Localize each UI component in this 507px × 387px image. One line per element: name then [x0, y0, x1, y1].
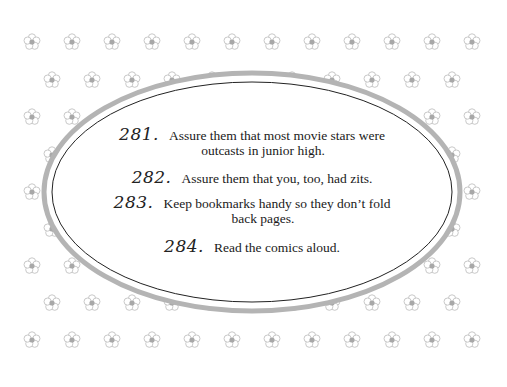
tip-number: 282.: [132, 167, 172, 187]
tips-list: 281.Assure them that most movie stars we…: [52, 82, 452, 302]
tip-284: 284.Read the comics aloud.: [52, 239, 452, 255]
tip-number: 281.: [119, 124, 159, 144]
tip-number: 283.: [114, 192, 154, 212]
tip-text: Assure them that you, too, had zits.: [182, 171, 373, 186]
tip-text-continued: back pages.: [52, 211, 452, 226]
tip-281: 281.Assure them that most movie stars we…: [52, 127, 452, 158]
tip-number: 284.: [164, 236, 204, 256]
tip-text: Read the comics aloud.: [214, 240, 340, 255]
tip-text-continued: outcasts in junior high.: [52, 143, 452, 158]
tip-282: 282.Assure them that you, too, had zits.: [52, 170, 452, 186]
tip-text: Assure them that most movie stars were: [169, 128, 385, 143]
tip-text: Keep bookmarks handy so they don’t fold: [163, 196, 390, 211]
tip-283: 283.Keep bookmarks handy so they don’t f…: [52, 195, 452, 226]
